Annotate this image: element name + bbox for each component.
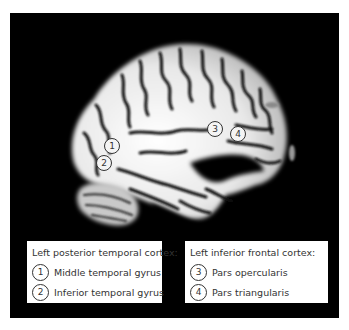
legend-number-badge: 1 <box>32 264 49 281</box>
legend-label: Pars triangularis <box>212 287 289 298</box>
legend-posterior-temporal: Left posterior temporal cortex: 1 Middle… <box>27 241 162 303</box>
legend-label: Middle temporal gyrus <box>54 267 161 278</box>
marker-4: 4 <box>230 126 246 142</box>
legend-title: Left inferior frontal cortex: <box>190 244 323 262</box>
legend-number-badge: 4 <box>190 284 207 301</box>
marker-1: 1 <box>104 138 120 154</box>
legend-item: 4 Pars triangularis <box>190 282 323 302</box>
legend-item: 1 Middle temporal gyrus <box>32 262 157 282</box>
legend-number-badge: 3 <box>190 264 207 281</box>
legend-inferior-frontal: Left inferior frontal cortex: 3 Pars ope… <box>185 241 328 303</box>
legend-title: Left posterior temporal cortex: <box>32 244 157 262</box>
marker-2: 2 <box>96 155 112 171</box>
legend-label: Inferior temporal gyrus <box>54 287 164 298</box>
legend-number-badge: 2 <box>32 284 49 301</box>
marker-3: 3 <box>207 121 223 137</box>
legend-item: 2 Inferior temporal gyrus <box>32 282 157 302</box>
legend-label: Pars opercularis <box>212 267 288 278</box>
legend-item: 3 Pars opercularis <box>190 262 323 282</box>
figure-panel: 1 2 3 4 Left posterior temporal cortex: … <box>10 13 339 318</box>
